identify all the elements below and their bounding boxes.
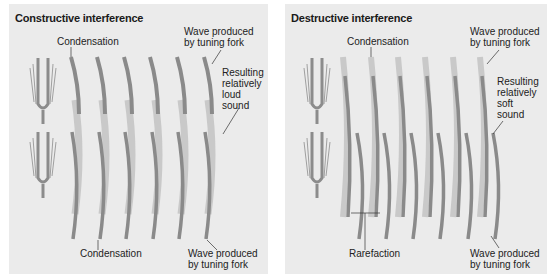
tuning-fork-icon — [304, 58, 330, 124]
wave-label-line2: by tuning fork — [470, 37, 530, 48]
wave-bottom-label-line2: by tuning fork — [188, 259, 248, 270]
wave-fronts — [71, 57, 212, 239]
condensation-label: Condensation — [347, 36, 409, 47]
rarefaction-label: Rarefaction — [349, 248, 400, 259]
result-label-line4: sound — [497, 109, 524, 120]
result-label-line1: Resulting — [497, 76, 539, 87]
destructive-interference-panel: Destructive interference — [285, 4, 547, 274]
tuning-fork-icon — [30, 132, 56, 198]
wave-fronts — [343, 57, 499, 239]
wave-label-line2: by tuning fork — [184, 37, 244, 48]
result-label-line2: relatively — [222, 78, 261, 89]
constructive-interference-panel: Constructive interference — [9, 4, 268, 274]
tuning-fork-icon — [30, 58, 56, 124]
result-label-line3: soft — [497, 98, 513, 109]
wave-label-line1: Wave produced — [470, 26, 540, 37]
result-label-line2: relatively — [497, 87, 536, 98]
condensation-bottom-label: Condensation — [80, 248, 142, 259]
condensation-label: Condensation — [57, 36, 119, 47]
tuning-fork-icon — [304, 132, 330, 198]
result-label-line1: Resulting — [222, 67, 264, 78]
wave-bottom-label-line1: Wave produced — [188, 248, 258, 259]
wave-bottom-label-line2: by tuning fork — [470, 259, 530, 270]
wave-bottom-label-line1: Wave produced — [470, 248, 540, 259]
result-label-line3: loud — [222, 89, 241, 100]
result-label-line4: sound — [222, 100, 249, 111]
wave-label-line1: Wave produced — [184, 26, 254, 37]
